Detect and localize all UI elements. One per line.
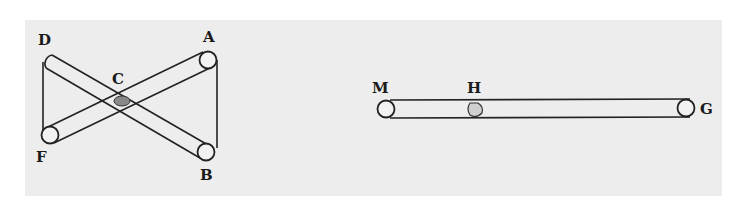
roller-a-icon [200,52,217,69]
left-diagram: D A C F B [36,28,217,184]
pivot-c-icon [114,96,130,106]
label-d: D [38,31,51,49]
roller-b-icon [198,144,215,161]
bar-m-g-top [390,99,690,100]
label-a: A [202,28,215,46]
figure-svg: D A C F B M H G [0,0,748,211]
label-h: H [467,79,481,97]
right-diagram: M H G [372,79,713,118]
label-g: G [700,100,713,118]
label-f: F [36,148,47,166]
roller-g-icon [678,100,695,117]
point-h-icon [468,103,483,117]
bar-d-b [45,55,208,158]
roller-f-icon [42,127,59,144]
roller-m-icon [378,101,395,118]
bar-m-g-bottom [390,117,690,118]
label-m: M [372,79,389,97]
label-b: B [200,166,213,184]
label-c: C [112,70,124,88]
